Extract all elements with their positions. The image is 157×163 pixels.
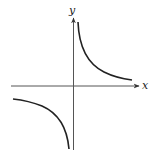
curve-branch-lower-left [13,99,69,149]
curve-branch-upper-right [78,22,132,80]
x-axis-label: x [142,79,149,92]
y-axis-label: y [68,4,76,17]
hyperbola-graph: x y [0,0,157,163]
